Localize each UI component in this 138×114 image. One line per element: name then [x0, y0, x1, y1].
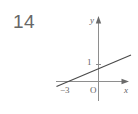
coordinate-plot: y x 1 −3 O [0, 0, 138, 114]
origin-label: O [90, 85, 97, 95]
x-tick-label-minus-three: −3 [60, 85, 70, 95]
y-axis-arrow-icon [96, 16, 101, 24]
x-axis-arrow-icon [122, 79, 130, 84]
y-tick-label-one: 1 [87, 57, 92, 67]
y-axis-label: y [89, 15, 94, 25]
figure-container: 14 y x 1 −3 O [0, 0, 138, 114]
x-axis-label: x [123, 85, 128, 95]
